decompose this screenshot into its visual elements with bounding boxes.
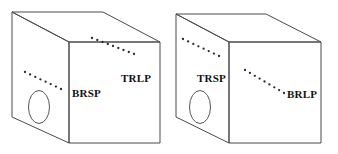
label-brlp: BRLP bbox=[287, 88, 317, 100]
right-carton: TRSP BRLP bbox=[176, 14, 321, 143]
label-trsp: TRSP bbox=[197, 72, 226, 84]
carton-diagram: BRSP TRLP bbox=[0, 0, 338, 154]
label-trlp: TRLP bbox=[121, 72, 151, 84]
left-carton-hole-icon bbox=[29, 91, 50, 124]
label-brsp: BRSP bbox=[72, 87, 101, 99]
right-carton-hole-icon bbox=[190, 91, 211, 124]
left-carton: BRSP TRLP bbox=[12, 12, 160, 143]
diagram-canvas: BRSP TRLP bbox=[0, 0, 338, 154]
